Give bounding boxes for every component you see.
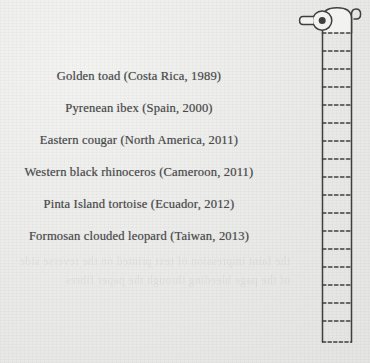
wall-bracket-hook: [352, 9, 361, 33]
list-item: Golden toad (Costa Rica, 1989): [0, 60, 278, 92]
list-item: Western black rhinoceros (Cameroon, 2011…: [0, 156, 278, 188]
toilet-paper-roll-icon: [296, 2, 370, 352]
extinct-species-list: Golden toad (Costa Rica, 1989) Pyrenean …: [0, 60, 278, 252]
page-showthrough-text: the faint impression of text printed on …: [0, 252, 300, 362]
book-page: the faint impression of text printed on …: [0, 0, 370, 363]
spindle-rod: [300, 17, 314, 25]
list-item: Formosan clouded leopard (Taiwan, 2013): [0, 220, 278, 252]
list-item: Pinta Island tortoise (Ecuador, 2012): [0, 188, 278, 220]
toilet-paper-roll-illustration: [296, 2, 370, 352]
spindle-hub: [319, 17, 326, 24]
perforation-lines: [323, 33, 352, 321]
list-item: Pyrenean ibex (Spain, 2000): [0, 92, 278, 124]
list-item: Eastern cougar (North America, 2011): [0, 124, 278, 156]
hanging-paper-strip: [323, 33, 352, 342]
